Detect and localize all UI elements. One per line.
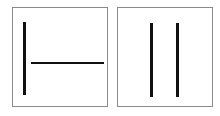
- panel-right: [117, 7, 213, 107]
- vertical-line: [176, 23, 179, 97]
- horizontal-line: [31, 62, 104, 64]
- vertical-line: [150, 23, 153, 97]
- vertical-line: [23, 22, 26, 95]
- panel-left: [12, 7, 108, 107]
